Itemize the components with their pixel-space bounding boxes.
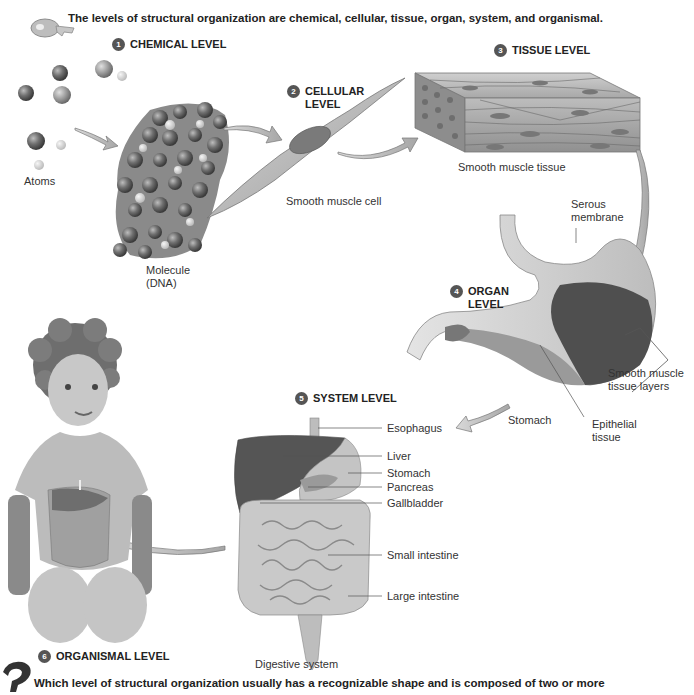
smooth-muscle-layers-label: Smooth muscle tissue layers bbox=[608, 367, 684, 393]
smooth-line1: Smooth muscle bbox=[608, 367, 684, 379]
number-badge: 2 bbox=[287, 85, 300, 98]
level-title-line1: CELLULAR bbox=[305, 85, 364, 97]
serous-line2: membrane bbox=[571, 211, 624, 223]
molecule-label-line2: (DNA) bbox=[146, 277, 177, 289]
level-title-line1: ORGAN bbox=[468, 285, 509, 297]
stomach-label: Stomach bbox=[508, 414, 551, 427]
serous-membrane-label: Serous membrane bbox=[571, 198, 624, 224]
arrow-icon bbox=[338, 138, 418, 159]
liver-label: Liver bbox=[387, 450, 411, 463]
digestive-system-caption: Digestive system bbox=[255, 658, 338, 671]
smooth-muscle-tissue-caption: Smooth muscle tissue bbox=[458, 161, 566, 174]
summary-text: The levels of structural organization ar… bbox=[68, 12, 603, 24]
child-illustration bbox=[8, 318, 152, 643]
gallbladder-label: Gallbladder bbox=[387, 497, 443, 510]
arrow-icon bbox=[456, 404, 510, 432]
number-badge: 5 bbox=[295, 392, 308, 405]
small-intestine-label: Small intestine bbox=[387, 549, 459, 562]
smooth-line2: tissue layers bbox=[608, 380, 669, 392]
level-title: SYSTEM LEVEL bbox=[313, 392, 397, 405]
serous-line1: Serous bbox=[571, 198, 606, 210]
atoms-label: Atoms bbox=[24, 175, 55, 188]
smooth-muscle-tissue-illustration bbox=[415, 73, 640, 152]
level-1-heading: 1 CHEMICAL LEVEL bbox=[112, 38, 226, 51]
molecule-label-line1: Molecule bbox=[146, 264, 190, 276]
level-title: ORGANISMAL LEVEL bbox=[56, 650, 169, 663]
number-badge: 6 bbox=[38, 650, 51, 663]
number-badge: 3 bbox=[494, 44, 507, 57]
level-5-heading: 5 SYSTEM LEVEL bbox=[295, 392, 397, 405]
epithelial-line1: Epithelial bbox=[592, 418, 637, 430]
stomach-system-label: Stomach bbox=[387, 467, 430, 480]
digestive-system-illustration bbox=[234, 418, 382, 670]
question-icon bbox=[3, 662, 31, 692]
large-intestine-label: Large intestine bbox=[387, 590, 459, 603]
dna-molecule-illustration bbox=[113, 102, 229, 259]
epithelial-tissue-label: Epithelial tissue bbox=[592, 418, 637, 444]
level-6-heading: 6 ORGANISMAL LEVEL bbox=[38, 650, 169, 663]
pancreas-label: Pancreas bbox=[387, 481, 433, 494]
epithelial-line2: tissue bbox=[592, 431, 621, 443]
esophagus-label: Esophagus bbox=[387, 422, 442, 435]
level-4-heading: 4 ORGANLEVEL bbox=[450, 285, 509, 311]
arrow-icon bbox=[75, 128, 118, 150]
number-badge: 1 bbox=[112, 38, 125, 51]
smooth-muscle-cell-caption: Smooth muscle cell bbox=[286, 195, 381, 208]
level-3-heading: 3 TISSUE LEVEL bbox=[494, 44, 590, 57]
atoms-illustration bbox=[18, 60, 127, 170]
level-title-line2: LEVEL bbox=[468, 298, 503, 310]
question-text: Which level of structural organization u… bbox=[34, 677, 605, 689]
molecule-label: Molecule (DNA) bbox=[146, 264, 190, 290]
arrow-icon bbox=[224, 126, 282, 143]
level-title: CHEMICAL LEVEL bbox=[130, 38, 226, 51]
number-badge: 4 bbox=[450, 285, 463, 298]
level-title: TISSUE LEVEL bbox=[512, 44, 590, 57]
level-2-heading: 2 CELLULARLEVEL bbox=[287, 85, 364, 111]
level-title-line2: LEVEL bbox=[305, 98, 340, 110]
